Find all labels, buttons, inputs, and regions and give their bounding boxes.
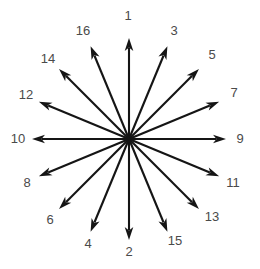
arrow-label-15: 15 — [168, 234, 182, 247]
arrow-label-13: 13 — [205, 210, 219, 223]
arrow-canvas — [0, 0, 260, 269]
radial-arrow-diagram: 12345678910111213141516 — [0, 0, 260, 269]
arrow-shaft-5 — [129, 76, 192, 139]
arrows-group — [32, 38, 226, 240]
arrow-label-4: 4 — [84, 237, 91, 250]
arrow-label-6: 6 — [46, 213, 53, 226]
arrow-label-11: 11 — [226, 176, 240, 189]
arrow-label-3: 3 — [170, 24, 177, 37]
arrow-label-8: 8 — [23, 176, 30, 189]
arrow-shaft-6 — [66, 139, 129, 202]
arrow-shaft-14 — [66, 76, 129, 139]
arrow-label-9: 9 — [236, 132, 243, 145]
arrow-label-5: 5 — [208, 48, 215, 61]
arrow-label-1: 1 — [124, 9, 131, 22]
arrow-label-10: 10 — [11, 132, 25, 145]
arrow-label-7: 7 — [230, 86, 237, 99]
arrow-label-16: 16 — [76, 24, 90, 37]
arrow-label-14: 14 — [41, 52, 55, 65]
arrow-label-2: 2 — [125, 245, 132, 258]
arrow-label-12: 12 — [19, 88, 33, 101]
arrow-shaft-13 — [129, 139, 192, 202]
